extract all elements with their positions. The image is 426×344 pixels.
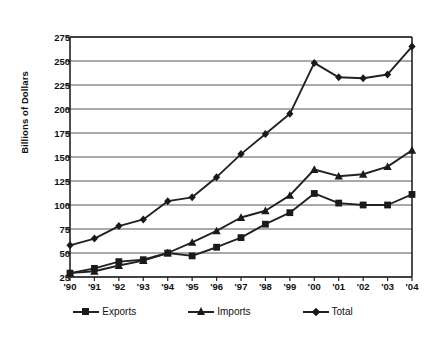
x-tick-label: '92 [112,281,125,292]
x-axis-tick-labels: '90'91'92'93'94'95'96'97'98'99'00'01'02'… [0,281,426,297]
square-marker-icon [213,244,220,251]
x-tick-label: '98 [259,281,272,292]
legend-swatch [303,306,329,317]
legend-label: Total [332,306,353,317]
x-tick-label: '91 [88,281,101,292]
square-marker-icon [189,252,196,259]
chart-legend: ExportsImportsTotal [0,302,426,320]
x-tick-label: '01 [332,281,345,292]
square-marker-icon [262,221,269,228]
legend-item-total[interactable]: Total [303,306,353,317]
square-marker-icon [409,191,416,198]
x-tick-label: '97 [235,281,248,292]
x-tick-label: '96 [210,281,223,292]
legend-label: Imports [217,306,250,317]
y-tick-label: 250 [54,56,70,67]
y-axis-title: Billions of Dollars [19,43,30,183]
x-tick-label: '90 [64,281,77,292]
x-tick-label: '93 [137,281,150,292]
square-marker-icon [286,209,293,216]
legend-item-imports[interactable]: Imports [188,306,250,317]
square-marker-icon [238,234,245,241]
triangle-marker-icon [197,307,205,315]
square-marker-icon [335,200,342,207]
y-tick-label: 75 [59,224,70,235]
x-tick-label: '95 [186,281,199,292]
square-marker-icon [360,202,367,209]
x-tick-label: '02 [357,281,370,292]
square-marker-icon [82,308,89,315]
y-tick-label: 100 [54,200,70,211]
diamond-marker-icon [311,307,319,315]
y-tick-label: 150 [54,152,70,163]
square-marker-icon [311,190,318,197]
square-marker-icon [384,202,391,209]
y-tick-label: 125 [54,176,70,187]
x-tick-label: '00 [308,281,321,292]
x-tick-label: '03 [381,281,394,292]
y-tick-label: 200 [54,104,70,115]
y-tick-label: 225 [54,80,70,91]
legend-swatch [188,306,214,317]
legend-swatch [73,306,99,317]
x-tick-label: '99 [283,281,296,292]
line-chart: Billions of Dollars 25507510012515017520… [0,0,426,344]
y-tick-label: 275 [54,32,70,43]
x-tick-label: '04 [406,281,419,292]
x-tick-label: '94 [161,281,174,292]
legend-label: Exports [102,306,136,317]
y-tick-label: 50 [59,248,70,259]
legend-item-exports[interactable]: Exports [73,306,136,317]
y-tick-label: 175 [54,128,70,139]
